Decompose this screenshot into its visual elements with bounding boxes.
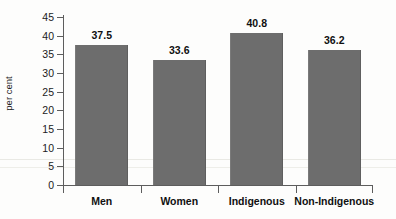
y-axis-tick-label: 10 — [14, 143, 54, 153]
y-axis-tick-label: 30 — [14, 68, 54, 78]
y-axis-title: per cent — [3, 64, 14, 124]
bar — [230, 33, 283, 185]
bar-chart: per cent 051015202530354045 MenWomenIndi… — [0, 0, 396, 219]
y-axis-tick-label: 20 — [14, 105, 54, 115]
category-label: Non-Indigenous — [279, 195, 389, 207]
y-axis-tick-label: 15 — [14, 124, 54, 134]
y-axis-tick-label: 0 — [14, 180, 54, 190]
bar-value-label: 37.5 — [72, 30, 132, 41]
bar — [308, 50, 361, 185]
y-axis-tick-label: 25 — [14, 87, 54, 97]
bar-value-label: 36.2 — [304, 35, 364, 46]
y-axis-tick-label: 45 — [14, 12, 54, 22]
y-axis-tick-label: 35 — [14, 49, 54, 59]
category-separator-tick — [141, 186, 142, 193]
x-axis-left-cap — [63, 186, 64, 193]
y-axis-tick-label: 5 — [14, 161, 54, 171]
y-axis-tick-label: 40 — [14, 31, 54, 41]
y-axis-tick — [57, 185, 63, 186]
bar — [75, 45, 128, 185]
bar-value-label: 33.6 — [149, 45, 209, 56]
bar — [153, 60, 206, 185]
category-separator-tick — [296, 186, 297, 193]
x-axis-right-cap — [372, 186, 373, 193]
category-separator-tick — [218, 186, 219, 193]
bar-value-label: 40.8 — [227, 18, 287, 29]
